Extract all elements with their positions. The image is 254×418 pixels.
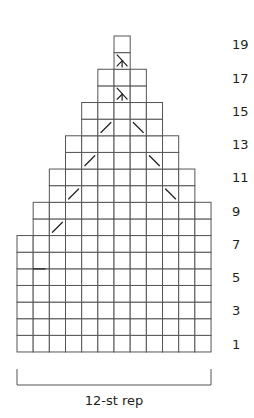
repeat-label: 12-st rep (85, 393, 144, 408)
chart-cell (33, 319, 49, 336)
chart-cell (146, 236, 162, 253)
chart-cell (33, 219, 49, 236)
chart-cell (66, 302, 82, 319)
chart-cell (17, 252, 33, 269)
chart-cell (82, 219, 98, 236)
chart-cell (82, 103, 98, 120)
chart-cell (163, 269, 179, 286)
chart-cell (98, 86, 114, 103)
chart-cell (33, 335, 49, 352)
chart-cell (82, 136, 98, 153)
chart-cell (130, 186, 146, 203)
chart-cell (98, 319, 114, 336)
chart-cell (179, 236, 195, 253)
row-number: 15 (232, 104, 249, 119)
chart-cell (82, 335, 98, 352)
chart-cell (66, 236, 82, 253)
knitting-chart: 135791113151719 12-st rep (0, 0, 254, 418)
chart-cell (114, 186, 130, 203)
chart-cell (33, 202, 49, 219)
chart-cell (179, 269, 195, 286)
chart-cell (146, 186, 162, 203)
chart-cell (66, 202, 82, 219)
chart-cell (130, 302, 146, 319)
chart-cell (114, 169, 130, 186)
row-number: 7 (232, 237, 240, 252)
chart-cell (114, 236, 130, 253)
row-numbers: 135791113151719 (232, 37, 249, 351)
chart-cell (195, 252, 211, 269)
chart-cell (130, 169, 146, 186)
chart-cell (146, 302, 162, 319)
chart-cell (66, 219, 82, 236)
chart-cell (146, 119, 162, 136)
chart-cell (82, 319, 98, 336)
chart-cell (163, 302, 179, 319)
chart-cell (195, 202, 211, 219)
chart-cell (66, 136, 82, 153)
chart-cell (66, 252, 82, 269)
chart-cell (146, 319, 162, 336)
chart-cell (163, 236, 179, 253)
chart-cell (114, 269, 130, 286)
chart-cell (98, 302, 114, 319)
chart-cell (17, 302, 33, 319)
chart-cell (146, 202, 162, 219)
chart-cell (146, 136, 162, 153)
chart-cell (146, 269, 162, 286)
chart-cell (114, 103, 130, 120)
chart-cell (98, 269, 114, 286)
chart-cell (49, 269, 65, 286)
chart-cell (179, 285, 195, 302)
chart-cell (163, 319, 179, 336)
chart-cell (130, 103, 146, 120)
chart-cell (98, 136, 114, 153)
chart-cell (130, 152, 146, 169)
chart-cell (82, 169, 98, 186)
chart-cell (163, 335, 179, 352)
chart-cell (179, 252, 195, 269)
chart-cell (130, 335, 146, 352)
chart-cell (163, 152, 179, 169)
chart-cell (49, 302, 65, 319)
chart-cell (114, 219, 130, 236)
chart-cell (17, 335, 33, 352)
chart-cell (179, 319, 195, 336)
chart-cell (163, 219, 179, 236)
chart-cell (179, 169, 195, 186)
chart-cell (82, 119, 98, 136)
chart-cell (49, 236, 65, 253)
chart-cell (130, 136, 146, 153)
chart-cell (114, 252, 130, 269)
chart-cell (163, 252, 179, 269)
chart-cell (195, 285, 211, 302)
chart-cell (146, 219, 162, 236)
chart-cell (130, 219, 146, 236)
chart-cell (66, 285, 82, 302)
chart-cell (98, 186, 114, 203)
chart-cell (33, 236, 49, 253)
row-number: 1 (232, 337, 240, 352)
row-number: 17 (232, 71, 249, 86)
chart-cell (66, 152, 82, 169)
chart-cell (82, 269, 98, 286)
chart-cell (66, 169, 82, 186)
row-number: 13 (232, 137, 249, 152)
chart-cell (146, 285, 162, 302)
chart-cell (49, 186, 65, 203)
chart-cell (130, 319, 146, 336)
chart-cell (66, 319, 82, 336)
chart-cell (130, 252, 146, 269)
chart-cell (33, 285, 49, 302)
chart-cell (179, 335, 195, 352)
chart-cell (98, 219, 114, 236)
chart-cell (17, 269, 33, 286)
chart-cell (114, 319, 130, 336)
chart-cell (33, 302, 49, 319)
chart-cell (49, 285, 65, 302)
chart-cell (179, 202, 195, 219)
chart-cell (33, 269, 49, 286)
chart-cell (130, 269, 146, 286)
chart-cell (82, 285, 98, 302)
chart-cell (114, 36, 130, 53)
